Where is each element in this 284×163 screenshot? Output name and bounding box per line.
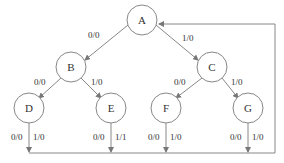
return-label-e-right: 1/1 bbox=[115, 132, 127, 142]
edge-label-c-g: 1/0 bbox=[231, 77, 243, 87]
node-c: C bbox=[197, 52, 227, 82]
node-label: A bbox=[138, 14, 146, 26]
edge-label-a-b: 0/0 bbox=[88, 30, 100, 40]
return-label-f-left: 0/0 bbox=[148, 132, 160, 142]
edge-label-c-f: 0/0 bbox=[174, 77, 186, 87]
node-label: B bbox=[67, 61, 74, 73]
return-label-g-left: 0/0 bbox=[230, 132, 242, 142]
node-label: C bbox=[208, 61, 215, 73]
node-label: G bbox=[244, 102, 252, 114]
node-b: B bbox=[56, 52, 86, 82]
edge-label-a-c: 1/0 bbox=[182, 33, 194, 43]
node-d: D bbox=[14, 93, 44, 123]
node-label: D bbox=[25, 102, 33, 114]
return-label-g-right: 1/0 bbox=[252, 132, 264, 142]
node-label: F bbox=[163, 102, 169, 114]
state-diagram: A B C D E F G 0/0 1/0 0/0 1/0 0/0 1/0 0/… bbox=[0, 0, 284, 163]
node-e: E bbox=[96, 93, 126, 123]
return-label-d-right: 1/0 bbox=[33, 132, 45, 142]
return-label-d-left: 0/0 bbox=[11, 132, 23, 142]
edge-label-b-d: 0/0 bbox=[34, 77, 46, 87]
node-label: E bbox=[108, 102, 115, 114]
edge-label-b-e: 1/0 bbox=[91, 77, 103, 87]
node-a: A bbox=[127, 5, 157, 35]
return-label-e-left: 0/0 bbox=[93, 132, 105, 142]
node-f: F bbox=[151, 93, 181, 123]
return-label-f-right: 1/0 bbox=[170, 132, 182, 142]
node-g: G bbox=[233, 93, 263, 123]
